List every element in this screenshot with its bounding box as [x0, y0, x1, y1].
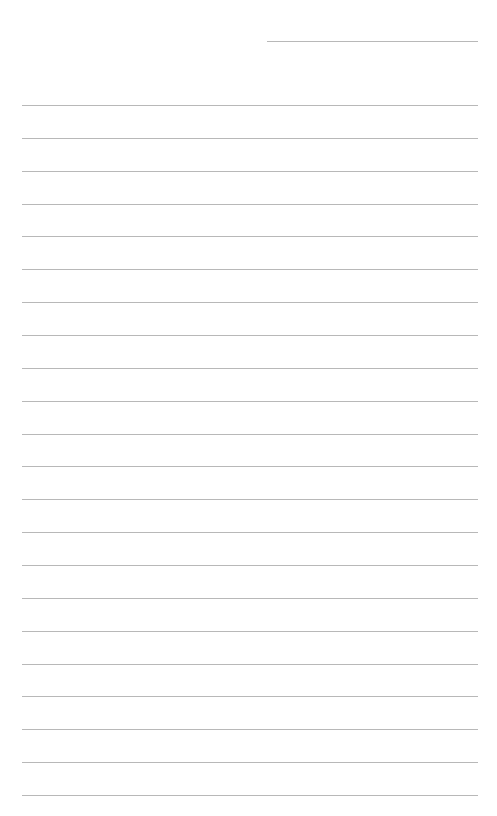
lined-paper-page: [0, 0, 497, 816]
ruled-line: [22, 598, 478, 599]
ruled-line: [22, 335, 478, 336]
ruled-line: [22, 762, 478, 763]
ruled-line: [22, 499, 478, 500]
ruled-line: [22, 269, 478, 270]
ruled-line: [22, 302, 478, 303]
ruled-line: [22, 565, 478, 566]
ruled-line: [22, 171, 478, 172]
ruled-line: [22, 532, 478, 533]
ruled-line: [22, 401, 478, 402]
ruled-line: [22, 204, 478, 205]
ruled-line: [22, 664, 478, 665]
ruled-line: [22, 729, 478, 730]
ruled-line: [22, 138, 478, 139]
ruled-line: [22, 105, 478, 106]
ruled-line: [22, 696, 478, 697]
ruled-line: [22, 631, 478, 632]
ruled-line: [22, 466, 478, 467]
date-line: [267, 41, 478, 42]
ruled-line: [22, 795, 478, 796]
ruled-line: [22, 236, 478, 237]
ruled-line: [22, 434, 478, 435]
ruled-line: [22, 368, 478, 369]
